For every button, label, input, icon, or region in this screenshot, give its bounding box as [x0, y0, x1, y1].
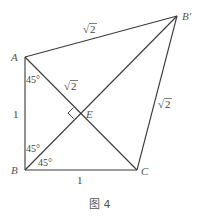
svg-text:2: 2: [165, 98, 171, 110]
angle-label-B-upper: 45°: [26, 143, 40, 154]
angle-label-B-lower: 45°: [38, 157, 52, 168]
length-label-AB: 1: [13, 108, 19, 120]
length-label-B-prime-C: √ 2: [158, 98, 172, 110]
point-label-A: A: [10, 51, 18, 63]
svg-text:√: √: [64, 80, 71, 92]
length-label-AB-prime: √ 2: [83, 23, 97, 35]
svg-text:2: 2: [90, 23, 96, 35]
svg-text:√: √: [83, 23, 90, 35]
svg-text:√: √: [158, 98, 165, 110]
point-label-C: C: [141, 165, 149, 177]
right-angle-mark: [68, 108, 74, 119]
point-label-B-prime: B′: [182, 10, 192, 22]
geometry-figure: A B C B′ E 1 1 √ 2 √ 2 √ 2 45° 45° 45° 图…: [0, 0, 204, 218]
svg-text:2: 2: [71, 80, 77, 92]
segment-B-prime-C: [137, 16, 177, 170]
point-label-E: E: [85, 108, 93, 120]
segment-BB-prime: [25, 16, 177, 170]
point-label-B: B: [11, 164, 18, 176]
angle-label-A: 45°: [26, 74, 40, 85]
figure-caption: 图 4: [89, 198, 111, 211]
length-label-AE: √ 2: [64, 80, 78, 92]
segment-AB-prime: [25, 16, 177, 57]
length-label-BC: 1: [77, 174, 83, 186]
